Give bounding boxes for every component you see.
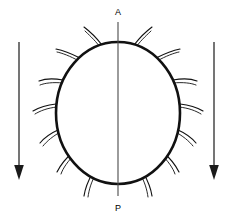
anterior-label: A: [115, 7, 121, 17]
left-flow-arrow: [14, 42, 24, 180]
right-flow-arrow-head: [209, 165, 219, 180]
cilium-right-3: [173, 79, 197, 85]
right-flow-arrow: [209, 42, 219, 180]
cilium-right-4: [179, 104, 203, 114]
cilium-left-3: [39, 79, 63, 85]
left-flow-arrow-head: [14, 165, 24, 180]
diagram-canvas: A P: [0, 0, 233, 220]
figure-container: A P: [0, 0, 233, 220]
posterior-label: P: [115, 203, 121, 213]
cilium-left-4: [33, 104, 57, 114]
